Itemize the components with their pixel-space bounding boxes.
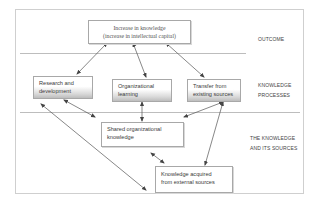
- node-organizational-learning: Organizational learning: [112, 79, 172, 102]
- tier-label-outcome: OUTCOME: [258, 34, 284, 44]
- edge-outcome-transfer: [166, 43, 204, 77]
- edge-transfer-external: [205, 102, 223, 165]
- edge-research-shared: [64, 100, 95, 117]
- tier-label-knowledge-processes: KNOWLEDGE PROCESSES: [258, 80, 291, 100]
- node-text-line: from external sources: [161, 179, 227, 187]
- tier-label-line: PROCESSES: [258, 90, 291, 100]
- edge-research-external: [41, 104, 146, 190]
- node-text-line: Knowledge acquired: [161, 171, 227, 179]
- node-text-line: Increase in knowledge: [92, 25, 187, 33]
- tier-label-line: AND ITS SOURCES: [250, 143, 297, 153]
- tier-label-line: KNOWLEDGE: [258, 80, 291, 90]
- node-text-line: Shared organizational: [107, 126, 178, 134]
- node-text-line: learning: [118, 91, 166, 99]
- edge-outcome-learning: [133, 43, 146, 77]
- node-increase-in-knowledge: Increase in knowledge (increase in intel…: [88, 20, 191, 44]
- node-shared-organizational-knowledge: Shared organizational knowledge: [101, 122, 184, 147]
- edge-shared-external: [151, 153, 164, 163]
- edge-outcome-research: [77, 43, 107, 74]
- tier-label-line: THE KNOWLEDGE: [250, 133, 297, 143]
- node-text-line: existing sources: [193, 91, 235, 99]
- node-text-line: development: [39, 88, 87, 96]
- node-knowledge-acquired-external: Knowledge acquired from external sources: [155, 166, 233, 193]
- node-text-line: Research and: [39, 80, 87, 88]
- node-text-line: (increase in intellectual capital): [92, 33, 187, 41]
- tier-label-line: OUTCOME: [258, 34, 284, 44]
- node-text-line: Organizational: [118, 83, 166, 91]
- node-text-line: Transfer from: [193, 83, 235, 91]
- tier-label-knowledge-sources: THE KNOWLEDGE AND ITS SOURCES: [250, 133, 297, 153]
- node-transfer-from-existing-sources: Transfer from existing sources: [187, 79, 241, 102]
- edge-transfer-shared: [184, 102, 223, 117]
- node-text-line: knowledge: [107, 134, 178, 142]
- node-research-and-development: Research and development: [33, 76, 93, 99]
